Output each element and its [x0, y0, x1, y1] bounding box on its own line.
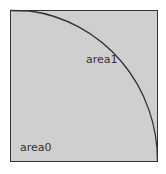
square-frame: [11, 11, 158, 162]
quarter-circle-diagram: area1 area0: [0, 0, 166, 174]
area1-label: area1: [86, 53, 118, 66]
area0-label: area0: [20, 141, 52, 154]
